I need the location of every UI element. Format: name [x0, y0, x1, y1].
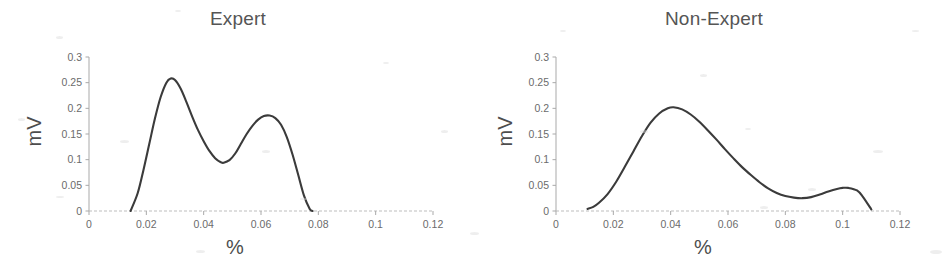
y-tick-label: 0.2 [534, 102, 549, 114]
x-tick-label: 0.02 [603, 218, 624, 230]
y-tick-label: 0.05 [529, 179, 550, 191]
y-tick-label: 0 [543, 205, 549, 217]
y-tick-label: 0.1 [67, 153, 82, 165]
x-tick-label: 0.04 [660, 218, 681, 230]
data-curve [131, 78, 313, 211]
x-tick-label: 0.04 [193, 218, 214, 230]
y-tick-label: 0.25 [529, 76, 550, 88]
y-tick-label: 0.25 [62, 76, 83, 88]
x-tick-label: 0.1 [835, 218, 850, 230]
x-tick-label: 0.02 [136, 218, 157, 230]
data-curve [588, 107, 872, 209]
plot-area-non-expert: 00.050.10.150.20.250.300.020.040.060.080… [476, 0, 952, 271]
y-tick-label: 0.2 [67, 102, 82, 114]
chart-panel-expert: Expert mV % 00.050.10.150.20.250.300.020… [0, 0, 476, 271]
charts-row: Expert mV % 00.050.10.150.20.250.300.020… [0, 0, 952, 271]
y-tick-label: 0.3 [67, 51, 82, 63]
x-tick-label: 0.08 [308, 218, 329, 230]
x-tick-label: 0.12 [890, 218, 911, 230]
x-tick-label: 0.08 [775, 218, 796, 230]
chart-panel-non-expert: Non-Expert mV % 00.050.10.150.20.250.300… [476, 0, 952, 271]
x-tick-label: 0 [553, 218, 559, 230]
y-tick-label: 0.3 [534, 51, 549, 63]
y-tick-label: 0.15 [62, 128, 83, 140]
x-tick-label: 0.06 [251, 218, 272, 230]
y-tick-label: 0.15 [529, 128, 550, 140]
y-tick-label: 0.1 [534, 153, 549, 165]
x-tick-label: 0.06 [718, 218, 739, 230]
y-tick-label: 0.05 [62, 179, 83, 191]
x-tick-label: 0.1 [368, 218, 383, 230]
plot-area-expert: 00.050.10.150.20.250.300.020.040.060.080… [0, 0, 476, 271]
x-tick-label: 0 [86, 218, 92, 230]
x-tick-label: 0.12 [423, 218, 444, 230]
y-tick-label: 0 [76, 205, 82, 217]
plot-group-non-expert: 00.050.10.150.20.250.300.020.040.060.080… [529, 51, 911, 230]
